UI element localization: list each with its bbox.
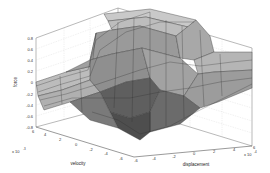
y-axis-multiplier: x 10 -3 bbox=[12, 147, 26, 154]
svg-text:-0.4: -0.4 bbox=[26, 103, 34, 108]
y-axis-ticks: 6 4 2 0 -2 -4 -6 bbox=[32, 129, 124, 161]
svg-text:0.4: 0.4 bbox=[27, 58, 33, 63]
x-axis-ticks: -6 -4 -2 0 2 4 6 bbox=[134, 145, 256, 163]
svg-text:0.6: 0.6 bbox=[27, 47, 33, 52]
z-axis-ticks: 0.8 0.6 0.4 0.2 0 -0.2 -0.4 -0.6 -0.8 bbox=[26, 36, 34, 130]
svg-text:-4: -4 bbox=[104, 151, 108, 156]
svg-text:-6: -6 bbox=[119, 156, 123, 161]
svg-text:-4: -4 bbox=[254, 150, 257, 154]
svg-text:0: 0 bbox=[193, 151, 196, 156]
surface bbox=[36, 9, 252, 140]
svg-text:-2: -2 bbox=[172, 154, 176, 159]
svg-text:6: 6 bbox=[32, 129, 35, 134]
svg-text:4: 4 bbox=[44, 132, 47, 137]
svg-text:-0.2: -0.2 bbox=[26, 92, 34, 97]
x-axis-label: displacement bbox=[183, 162, 210, 167]
svg-text:2: 2 bbox=[213, 149, 216, 154]
x-axis-multiplier: x 10 -4 bbox=[244, 150, 257, 157]
svg-text:0: 0 bbox=[75, 142, 78, 147]
svg-text:2: 2 bbox=[59, 137, 62, 142]
svg-text:-2: -2 bbox=[89, 147, 93, 152]
svg-text:x 10: x 10 bbox=[12, 149, 20, 154]
svg-text:x 10: x 10 bbox=[244, 152, 252, 157]
svg-text:0.8: 0.8 bbox=[27, 36, 33, 41]
svg-text:0.2: 0.2 bbox=[27, 69, 33, 74]
surface-plot: 0.8 0.6 0.4 0.2 0 -0.2 -0.4 -0.6 -0.8 fo… bbox=[0, 0, 270, 173]
y-axis-label: velocity bbox=[70, 161, 86, 166]
svg-text:0: 0 bbox=[31, 80, 34, 85]
svg-text:-4: -4 bbox=[152, 156, 156, 161]
z-axis-label: force bbox=[13, 77, 18, 88]
svg-text:-3: -3 bbox=[23, 147, 26, 151]
svg-text:-0.6: -0.6 bbox=[26, 114, 34, 119]
svg-text:-6: -6 bbox=[134, 158, 138, 163]
